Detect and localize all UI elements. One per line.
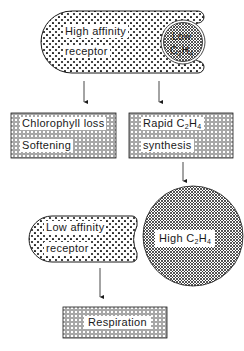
synthesis-label-1: Rapid C2H4	[141, 117, 204, 130]
low-affinity-label-1: Low affinity	[44, 221, 106, 234]
text: Rapid C	[143, 117, 185, 129]
sub: 4	[207, 238, 211, 245]
low-affinity-label-2: receptor	[44, 242, 91, 255]
chlorophyll-label-2: Softening	[20, 139, 73, 152]
high-affinity-label-1: High affinity	[63, 25, 128, 38]
high-ethylene-label: High C2H4	[155, 230, 215, 247]
diagram-canvas	[0, 0, 244, 351]
low-ethylene-label-1: Low	[170, 30, 193, 43]
text: C	[170, 45, 178, 56]
synthesis-label-2: synthesis	[141, 139, 194, 152]
sub: 4	[189, 50, 193, 57]
low-ethylene-label-2: C2H4	[168, 44, 195, 57]
chlorophyll-label-1: Chlorophyll loss	[20, 117, 106, 130]
sub: 4	[197, 123, 201, 130]
text: H	[199, 232, 207, 244]
high-affinity-label-2: receptor	[63, 45, 110, 58]
respiration-label: Respiration	[84, 316, 151, 329]
text: High C	[159, 232, 194, 244]
